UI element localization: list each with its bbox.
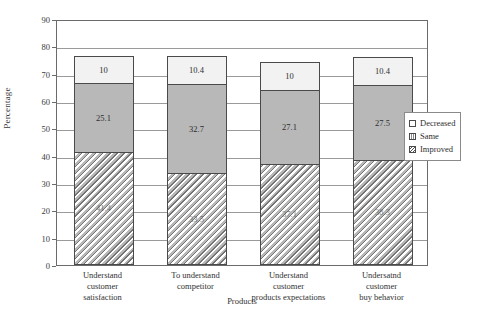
chart-legend: DecreasedSameImproved xyxy=(404,112,461,161)
y-axis-tick-label: 30 xyxy=(28,180,50,189)
y-axis-tick-label: 50 xyxy=(28,125,50,134)
category-label-line: customer xyxy=(323,281,441,292)
bar-segment-improved[interactable]: 38.3 xyxy=(353,160,413,265)
category-label-line: Undersatnd xyxy=(323,270,441,281)
bar-value-label: 10.4 xyxy=(189,66,204,75)
bar-value-label: 41.4 xyxy=(96,204,111,213)
legend-item-label: Decreased xyxy=(420,117,455,130)
bar-segment-decreased[interactable]: 10.4 xyxy=(353,57,413,85)
legend-item-improved[interactable]: Improved xyxy=(409,143,455,156)
bar-stack[interactable]: 1027.137.1 xyxy=(260,62,320,265)
y-axis-title-text: Percentage xyxy=(2,63,12,153)
y-axis-tick-label: 70 xyxy=(28,70,50,79)
bar-value-label: 10 xyxy=(285,72,294,81)
bar-stack[interactable]: 10.432.733.5 xyxy=(167,56,227,265)
stacked-bar-chart: Percentage 9080706050403020100 1025.141.… xyxy=(0,0,496,316)
bar-segment-improved[interactable]: 41.4 xyxy=(74,152,134,265)
bar-segment-improved[interactable]: 37.1 xyxy=(260,164,320,265)
legend-swatch-improved-icon xyxy=(409,146,416,153)
y-axis-tick-label: 20 xyxy=(28,207,50,216)
y-axis-tick-label: 40 xyxy=(28,152,50,161)
bar-segment-same[interactable]: 25.1 xyxy=(74,83,134,152)
bar-value-label: 27.5 xyxy=(375,119,390,128)
bar-segment-decreased[interactable]: 10 xyxy=(260,62,320,89)
bar-value-label: 33.5 xyxy=(189,215,204,224)
legend-item-label: Same xyxy=(420,130,439,143)
plot-area: 1025.141.410.432.733.51027.137.110.427.5… xyxy=(56,20,428,266)
legend-item-label: Improved xyxy=(420,143,453,156)
bar-stack[interactable]: 1025.141.4 xyxy=(74,56,134,265)
y-axis-tick-label: 0 xyxy=(28,262,50,271)
legend-item-decreased[interactable]: Decreased xyxy=(409,117,455,130)
bar-value-label: 10.4 xyxy=(375,67,390,76)
bar-value-label: 27.1 xyxy=(282,123,297,132)
legend-item-same[interactable]: Same xyxy=(409,130,455,143)
bar-value-label: 32.7 xyxy=(189,125,204,134)
legend-swatch-decreased-icon xyxy=(409,120,416,127)
y-axis-tick-mark xyxy=(52,266,56,267)
bar-segment-decreased[interactable]: 10 xyxy=(74,56,134,83)
y-axis-tick-label: 60 xyxy=(28,98,50,107)
bar-value-label: 25.1 xyxy=(96,114,111,123)
bar-segment-same[interactable]: 27.1 xyxy=(260,90,320,164)
bar-value-label: 37.1 xyxy=(282,210,297,219)
x-axis-title: Products xyxy=(56,296,428,306)
legend-swatch-same-icon xyxy=(409,133,416,140)
bar-value-label: 10 xyxy=(99,66,108,75)
y-axis-tick-label: 80 xyxy=(28,43,50,52)
bar-segment-improved[interactable]: 33.5 xyxy=(167,173,227,265)
bar-segment-decreased[interactable]: 10.4 xyxy=(167,56,227,84)
bar-value-label: 38.3 xyxy=(375,208,390,217)
y-axis-tick-label: 90 xyxy=(28,16,50,25)
bar-series-container: 1025.141.410.432.733.51027.137.110.427.5… xyxy=(57,21,427,265)
y-axis-tick-label: 10 xyxy=(28,234,50,243)
y-axis-tick-labels: 9080706050403020100 xyxy=(26,0,50,316)
bar-segment-same[interactable]: 32.7 xyxy=(167,84,227,173)
y-axis-title: Percentage xyxy=(2,18,12,108)
